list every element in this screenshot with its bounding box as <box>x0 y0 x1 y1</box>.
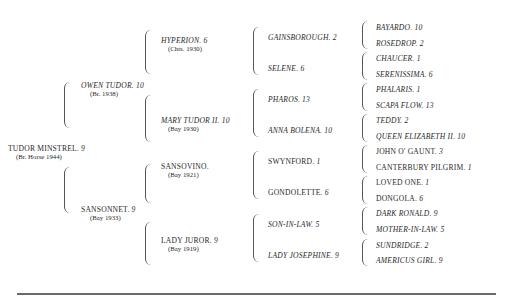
dosage-number: 13 <box>426 101 434 110</box>
gen4-horse: JOHN O' GAUNT. 3 <box>376 148 443 156</box>
gen4-horse: SCAPA FLOW. 13 <box>376 102 434 110</box>
horse-description: (Br. Horse 1944) <box>8 154 85 161</box>
dosage-number: 6 <box>325 188 329 197</box>
horse-name: SERENISSIMA. 6 <box>376 71 433 79</box>
subject-horse: TUDOR MINSTREL. 9(Br. Horse 1944) <box>8 145 85 160</box>
horse-name: ROSEDROP. 2 <box>376 40 424 48</box>
gen3-horse: SON-IN-LAW. 5 <box>268 221 319 229</box>
gen3-horse: SELENE. 6 <box>268 65 304 73</box>
horse-name: SANSOVINO. <box>161 163 209 171</box>
dosage-number: 10 <box>457 132 465 141</box>
dosage-number: 2 <box>405 116 409 125</box>
gen4-horse: QUEEN ELIZABETH II. 10 <box>376 133 465 141</box>
bracket-gen4 <box>362 145 371 173</box>
dosage-number: 9 <box>214 236 218 245</box>
gen4-horse: LOVED ONE. 1 <box>376 179 429 187</box>
horse-name: MOTHER-IN-LAW. 5 <box>376 226 444 234</box>
bracket-gen4 <box>362 52 371 80</box>
bracket-gen4 <box>362 21 371 49</box>
horse-name: PHALARIS. 1 <box>376 86 420 94</box>
gen4-horse: ROSEDROP. 2 <box>376 40 424 48</box>
dosage-number: 13 <box>302 95 310 104</box>
gen4-horse: AMERICUS GIRL. 9 <box>376 257 443 265</box>
horse-name: TEDDY. 2 <box>376 117 409 125</box>
dosage-number: 1 <box>416 85 420 94</box>
horse-name: ANNA BOLENA. 10 <box>268 127 332 135</box>
horse-name: OWEN TUDOR. 10 <box>81 82 144 90</box>
horse-name: LOVED ONE. 1 <box>376 179 429 187</box>
bracket-gen3 <box>253 214 262 262</box>
dosage-number: 2 <box>420 39 424 48</box>
bracket-gen2 <box>145 222 154 265</box>
horse-name: HYPERION. 6 <box>161 37 208 45</box>
dosage-number: 6 <box>429 70 433 79</box>
horse-name: SELENE. 6 <box>268 65 304 73</box>
gen3-horse: GONDOLETTE. 6 <box>268 189 329 197</box>
dosage-number: 9 <box>439 256 443 265</box>
horse-description: (Bay 1921) <box>161 172 209 179</box>
dosage-number: 1 <box>468 163 472 172</box>
dosage-number: 9 <box>132 205 136 214</box>
gen4-horse: CANTERBURY PILGRIM. 1 <box>376 164 472 172</box>
horse-name: LADY JUROR. 9 <box>161 237 218 245</box>
dosage-number: 3 <box>439 147 443 156</box>
dosage-number: 10 <box>414 23 422 32</box>
dosage-number: 10 <box>136 81 144 90</box>
bracket-gen4 <box>362 207 371 235</box>
horse-name: CHAUCER. 1 <box>376 55 421 63</box>
horse-description: (Br. 1938) <box>81 91 144 98</box>
gen2-horse: HYPERION. 6(Chts. 1930) <box>161 37 208 52</box>
gen4-horse: MOTHER-IN-LAW. 5 <box>376 226 444 234</box>
horse-name: GAINSBOROUGH. 2 <box>268 34 337 42</box>
dosage-number: 1 <box>417 54 421 63</box>
horse-name: DONGOLA. 6 <box>376 195 423 203</box>
horse-name: MARY TUDOR II. 10 <box>161 117 230 125</box>
dosage-number: 10 <box>324 126 332 135</box>
dosage-number: 1 <box>316 157 320 166</box>
horse-name: QUEEN ELIZABETH II. 10 <box>376 133 465 141</box>
gen4-horse: PHALARIS. 1 <box>376 86 420 94</box>
gen4-horse: DARK RONALD. 9 <box>376 210 438 218</box>
dam: SANSONNET. 9(Bay 1933) <box>81 206 136 221</box>
gen3-horse: ANNA BOLENA. 10 <box>268 127 332 135</box>
bracket-gen3 <box>253 27 262 75</box>
dosage-number: 10 <box>222 116 230 125</box>
gen4-horse: SERENISSIMA. 6 <box>376 71 433 79</box>
horse-name: DARK RONALD. 9 <box>376 210 438 218</box>
horse-name: SANSONNET. 9 <box>81 206 136 214</box>
horse-name: JOHN O' GAUNT. 3 <box>376 148 443 156</box>
gen3-horse: GAINSBOROUGH. 2 <box>268 34 337 42</box>
gen3-horse: SWYNFORD. 1 <box>268 158 320 166</box>
horse-name: TUDOR MINSTREL. 9 <box>8 145 85 153</box>
dosage-number: 6 <box>300 64 304 73</box>
gen2-horse: LADY JUROR. 9(Bay 1919) <box>161 237 218 252</box>
horse-name: SUNDRIDGE. 2 <box>376 242 429 250</box>
gen3-horse: PHAROS. 13 <box>268 96 310 104</box>
gen2-horse: MARY TUDOR II. 10(Bay 1930) <box>161 117 230 132</box>
horse-name: SON-IN-LAW. 5 <box>268 221 319 229</box>
sire: OWEN TUDOR. 10(Br. 1938) <box>81 82 144 97</box>
bracket-dam-line <box>64 167 73 213</box>
gen2-horse: SANSOVINO.(Bay 1921) <box>161 163 209 178</box>
dosage-number: 5 <box>315 220 319 229</box>
bracket-gen3 <box>253 89 262 137</box>
horse-name: SWYNFORD. 1 <box>268 158 320 166</box>
dosage-number: 5 <box>440 225 444 234</box>
gen4-horse: TEDDY. 2 <box>376 117 409 125</box>
horse-name: GONDOLETTE. 6 <box>268 189 329 197</box>
dosage-number: 9 <box>434 209 438 218</box>
dosage-number: 2 <box>333 33 337 42</box>
horse-name: BAYARDO. 10 <box>376 24 422 32</box>
dosage-number: 2 <box>425 241 429 250</box>
horse-name: LADY JOSEPHINE. 9 <box>268 252 339 260</box>
bracket-gen4 <box>362 176 371 204</box>
dosage-number: 9 <box>81 144 85 153</box>
bracket-gen4 <box>362 114 371 142</box>
horse-description: (Bay 1930) <box>161 126 230 133</box>
gen4-horse: DONGOLA. 6 <box>376 195 423 203</box>
dosage-number: 9 <box>335 251 339 260</box>
horse-name: SCAPA FLOW. 13 <box>376 102 434 110</box>
bracket-gen4 <box>362 239 371 266</box>
horse-description: (Chts. 1930) <box>161 46 208 53</box>
bracket-gen2 <box>145 95 154 142</box>
